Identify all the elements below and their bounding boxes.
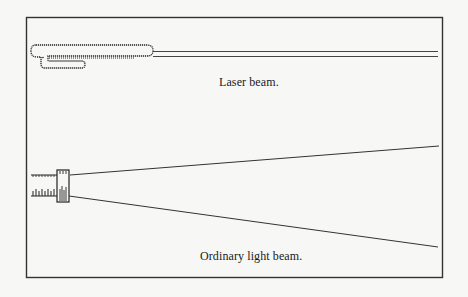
ordinary-light-beam-caption: Ordinary light beam. <box>200 249 302 264</box>
laser-beam <box>153 52 438 57</box>
laser-device-icon <box>31 45 153 68</box>
flashlight-icon <box>31 170 69 202</box>
ordinary-light-beam <box>69 146 439 247</box>
laser-beam-caption: Laser beam. <box>219 75 279 90</box>
